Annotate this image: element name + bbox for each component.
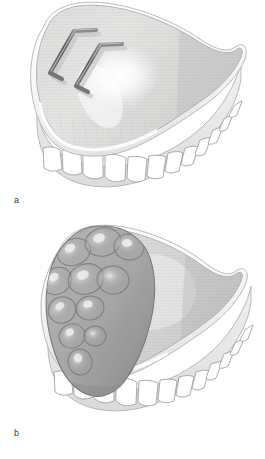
- denture-illustration-b: [0, 222, 265, 459]
- panel-label-b: b: [14, 429, 19, 438]
- figure-panel-a: [0, 0, 265, 222]
- denture-illustration-a: [0, 0, 265, 222]
- figure-panel-b: [0, 222, 265, 459]
- panel-label-a: a: [14, 196, 19, 205]
